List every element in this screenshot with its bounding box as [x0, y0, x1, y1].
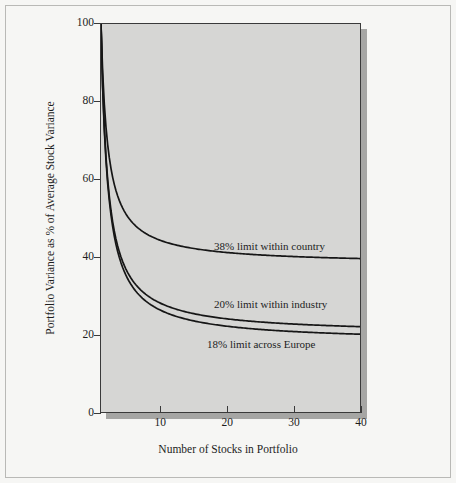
- y-tick-label: 80: [60, 95, 94, 107]
- figure-container: 020406080100 10203040 Number of Stocks i…: [0, 0, 456, 483]
- x-tick-mark: [361, 406, 362, 413]
- y-tick-mark: [94, 335, 101, 336]
- x-tick-label: 30: [274, 417, 314, 429]
- y-tick-mark: [94, 257, 101, 258]
- y-tick-label: 100: [60, 17, 94, 29]
- curves-svg: [101, 24, 360, 412]
- x-tick-label: 20: [207, 417, 247, 429]
- y-tick-mark: [94, 413, 101, 414]
- x-tick-mark: [160, 406, 161, 413]
- x-tick-mark: [227, 406, 228, 413]
- y-tick-mark: [94, 23, 101, 24]
- y-tick-label: 0: [60, 407, 94, 419]
- x-tick-label: 40: [341, 417, 381, 429]
- x-tick-mark: [294, 406, 295, 413]
- y-tick-label: 60: [60, 173, 94, 185]
- x-axis-title: Number of Stocks in Portfolio: [0, 443, 456, 455]
- y-axis-title: Portfolio Variance as % of Average Stock…: [44, 101, 56, 334]
- annotation-country-limit: 38% limit within country: [214, 240, 325, 252]
- y-tick-mark: [94, 101, 101, 102]
- curve-1: [101, 24, 360, 327]
- annotation-europe-limit: 18% limit across Europe: [207, 338, 315, 350]
- y-tick-mark: [94, 179, 101, 180]
- y-tick-label: 20: [60, 329, 94, 341]
- curve-2: [101, 24, 360, 334]
- plot-area: [100, 23, 361, 413]
- curve-0: [101, 24, 360, 259]
- x-tick-label: 10: [140, 417, 180, 429]
- y-tick-label: 40: [60, 251, 94, 263]
- annotation-industry-limit: 20% limit within industry: [214, 298, 327, 310]
